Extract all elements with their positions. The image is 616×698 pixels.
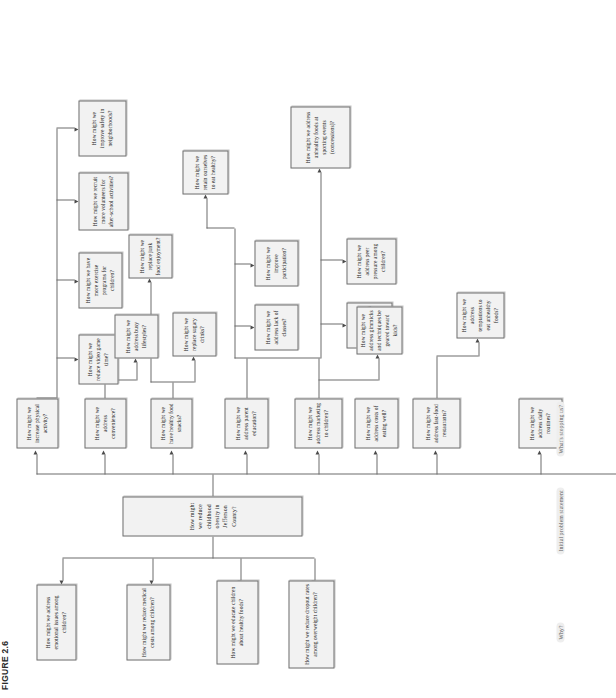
connector-why1 (62, 558, 63, 580)
node-label: How might we address busy lifestyles? (124, 317, 147, 355)
node-label: How might we replace sugary drinks? (182, 315, 205, 353)
connector-l8-in (206, 198, 207, 228)
arrowhead-l11 (317, 168, 321, 172)
connector-s8 (540, 454, 541, 474)
arrowhead-s2 (101, 450, 105, 454)
node-label: How might we address marketing to childr… (306, 401, 329, 445)
arrowhead-why1 (59, 580, 63, 584)
connector-l7-in (194, 360, 195, 382)
figure-caption-text: FIGURE 2.6 (0, 641, 10, 690)
connector-s7 (436, 454, 437, 474)
node-label: How might we address lack of classes? (264, 307, 287, 347)
connector-l14-in (378, 358, 379, 380)
node-label: How might we replace junk food enjoyment… (138, 237, 161, 275)
node-label: How might we reduce childhood obesity in… (187, 499, 237, 533)
arrowhead-l10 (250, 263, 254, 267)
node-address-convenience[interactable]: How might we address convenience? (84, 398, 126, 448)
connector-s2 (104, 454, 105, 474)
node-label: How might we address unhealthy foods at … (304, 109, 335, 165)
connector-s4-bus-v (234, 357, 320, 358)
node-label: How might we address temptations to eat … (460, 295, 499, 335)
node-lack-of-classes[interactable]: How might we address lack of classes? (254, 304, 298, 350)
node-why-emotional-issues[interactable]: How might we address emotional issues am… (36, 584, 76, 660)
node-healthy-food-snacks[interactable]: How might we have healthy food snacks? (150, 398, 192, 448)
connector-l1-drop (56, 357, 74, 358)
arrowhead-l3 (74, 199, 78, 203)
connector-l12-drop (320, 323, 342, 324)
connector-l15-in (478, 342, 479, 356)
arrowhead-l9 (250, 325, 254, 329)
node-label: How might we improve safety in neighborh… (90, 103, 113, 153)
node-label: How might we address gimmicks and techni… (359, 309, 398, 351)
arrowhead-l14 (375, 354, 379, 358)
node-replace-sugary-drinks[interactable]: How might we replace sugary drinks? (172, 312, 216, 356)
connector-l4-drop (56, 127, 74, 128)
connector-l5-in (136, 362, 137, 380)
arrowhead-s6 (373, 450, 377, 454)
arrowhead-l15 (475, 338, 479, 342)
node-junk-food-enjoyment[interactable]: How might we replace junk food enjoyment… (128, 234, 172, 278)
node-label: How might we address costs of eating wel… (364, 401, 387, 445)
node-marketing-to-children[interactable]: How might we address marketing to childr… (294, 398, 342, 448)
figure-caption: FIGURE 2.6 (0, 641, 10, 690)
connector-root-to-stopping (212, 474, 213, 496)
node-label: How might we address daily routines? (528, 401, 551, 445)
arrowhead-l1 (74, 357, 78, 361)
node-improve-participation[interactable]: How might we improve participation? (254, 240, 298, 286)
node-why-educate-children[interactable]: How might we educate children about heal… (216, 580, 258, 664)
node-unhealthy-foods-sporting-events[interactable]: How might we address unhealthy foods at … (290, 106, 350, 168)
node-peer-pressure[interactable]: How might we address peer pressure among… (346, 238, 396, 284)
connector-why3 (240, 558, 241, 580)
label-why-text: Why? (557, 625, 563, 639)
label-initial-text: Initial problem statement (557, 490, 563, 551)
connector-root-to-why (212, 536, 213, 558)
arrowhead-l12 (342, 323, 346, 327)
connector-s3 (172, 454, 173, 474)
node-label: How might we address peer pressure among… (355, 241, 386, 281)
node-label: How might we address parent education? (234, 401, 257, 445)
connector-why-spine (62, 557, 314, 558)
node-parent-education[interactable]: How might we address parent education? (224, 398, 268, 448)
node-label: How might we increase physical activity? (25, 401, 48, 445)
node-reduce-video-game-time[interactable]: How might we reduce video game time? (78, 334, 118, 384)
node-fast-food-restaurants[interactable]: How might we address fast-food restauran… (412, 398, 460, 448)
label-why: Why? (556, 622, 564, 642)
node-label: How might we improve participation? (264, 243, 287, 283)
connector-s7-out (436, 356, 437, 398)
connector-l10-drop (234, 263, 250, 264)
arrowhead-s4 (243, 450, 247, 454)
node-label: How might we have healthy food snacks? (159, 401, 182, 445)
node-more-exercise-programs[interactable]: How might we have more exercise programs… (78, 252, 122, 308)
node-label: How might we address emotional issues am… (44, 587, 67, 657)
node-label: How might we retain ourselves to eat hea… (193, 153, 216, 191)
arrowhead-s5 (315, 450, 319, 454)
node-improve-safety-neighborhoods[interactable]: How might we improve safety in neighborh… (78, 100, 126, 156)
node-root-problem-statement[interactable]: How might we reduce childhood obesity in… (122, 496, 302, 536)
node-label: How might we recruit more volunteers for… (91, 175, 114, 227)
node-recruit-volunteers[interactable]: How might we recruit more volunteers for… (78, 172, 128, 230)
node-label: How might we educate children about heal… (229, 583, 245, 661)
arrowhead-l6 (147, 278, 151, 282)
label-initial-problem-statement: Initial problem statement (556, 487, 564, 554)
node-gimmicks-techniques[interactable]: How might we address gimmicks and techni… (356, 306, 402, 354)
node-label: How might we reduce dropout rates among … (303, 583, 319, 665)
node-increase-physical-activity[interactable]: How might we increase physical activity? (16, 398, 58, 448)
connector-l8-riser (206, 227, 234, 228)
arrowhead-l13 (342, 259, 346, 263)
connector-s4 (246, 454, 247, 474)
node-why-dropout-rates[interactable]: How might we reduce dropout rates among … (288, 580, 334, 668)
arrowhead-l8 (203, 194, 207, 198)
connector-s1 (36, 454, 37, 474)
node-busy-lifestyles[interactable]: How might we address busy lifestyles? (114, 314, 158, 358)
node-temptations-unhealthy-foods[interactable]: How might we address temptations to eat … (456, 292, 504, 338)
node-costs-of-eating-well[interactable]: How might we address costs of eating wel… (354, 398, 398, 448)
connector-s5 (318, 454, 319, 474)
node-retain-eat-healthy[interactable]: How might we retain ourselves to eat hea… (182, 150, 228, 194)
arrowhead-l4 (74, 127, 78, 131)
node-daily-routines[interactable]: How might we address daily routines? (518, 398, 562, 448)
node-why-medical-costs[interactable]: How might we reduce medical costs among … (126, 584, 170, 660)
node-label: How might we address convenience? (93, 401, 116, 445)
arrowhead-s1 (33, 450, 37, 454)
